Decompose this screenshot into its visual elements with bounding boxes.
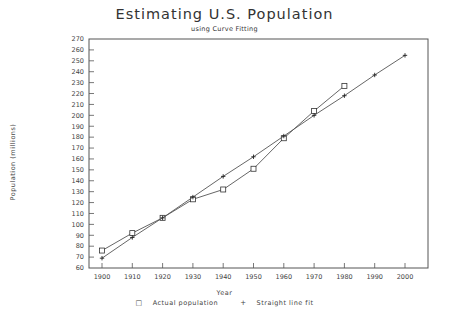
x-tick-label: 1900 <box>94 273 111 281</box>
x-tick-label: 1960 <box>276 273 293 281</box>
legend-label-actual: Actual population <box>153 299 219 307</box>
y-tick-label: 120 <box>72 199 84 207</box>
y-tick-label: 260 <box>72 46 84 54</box>
y-tick-label: 210 <box>72 101 84 109</box>
square-marker-icon <box>342 83 347 88</box>
y-tick-label: 90 <box>76 232 84 240</box>
plus-marker-icon: + <box>240 299 246 307</box>
x-tick-label: 1990 <box>366 273 383 281</box>
y-tick-label: 110 <box>72 210 84 218</box>
square-marker-icon <box>312 108 317 113</box>
square-marker-icon: □ <box>136 299 143 307</box>
legend-label-fit: Straight line fit <box>257 299 314 307</box>
y-tick-label: 250 <box>72 57 84 65</box>
plot-area: 6070809010011012013014015016017018019020… <box>0 0 449 317</box>
y-tick-label: 200 <box>72 112 84 120</box>
y-tick-label: 170 <box>72 144 84 152</box>
y-tick-label: 180 <box>72 133 84 141</box>
y-tick-label: 70 <box>76 253 84 261</box>
x-tick-label: 1970 <box>306 273 323 281</box>
y-tick-label: 60 <box>76 264 84 272</box>
y-tick-label: 230 <box>72 79 84 87</box>
square-marker-icon <box>100 248 105 253</box>
y-tick-label: 80 <box>76 242 84 250</box>
y-tick-label: 190 <box>72 123 84 131</box>
x-tick-label: 1910 <box>124 273 141 281</box>
square-marker-icon <box>130 231 135 236</box>
y-tick-label: 130 <box>72 188 84 196</box>
y-tick-label: 100 <box>72 221 84 229</box>
x-tick-label: 2000 <box>397 273 414 281</box>
square-marker-icon <box>251 166 256 171</box>
y-tick-label: 140 <box>72 177 84 185</box>
x-tick-label: 1920 <box>154 273 171 281</box>
legend-item-fit: + Straight line fit <box>240 299 313 307</box>
y-tick-label: 150 <box>72 166 84 174</box>
x-tick-label: 1950 <box>245 273 262 281</box>
legend-item-actual: □ Actual population <box>136 299 219 307</box>
x-tick-label: 1930 <box>185 273 202 281</box>
y-tick-label: 240 <box>72 68 84 76</box>
y-tick-label: 160 <box>72 155 84 163</box>
series-line <box>102 86 344 251</box>
y-tick-label: 270 <box>72 35 84 43</box>
square-marker-icon <box>221 187 226 192</box>
x-tick-label: 1980 <box>336 273 353 281</box>
x-tick-label: 1940 <box>215 273 232 281</box>
y-tick-label: 220 <box>72 90 84 98</box>
legend: □ Actual population + Straight line fit <box>0 299 449 307</box>
